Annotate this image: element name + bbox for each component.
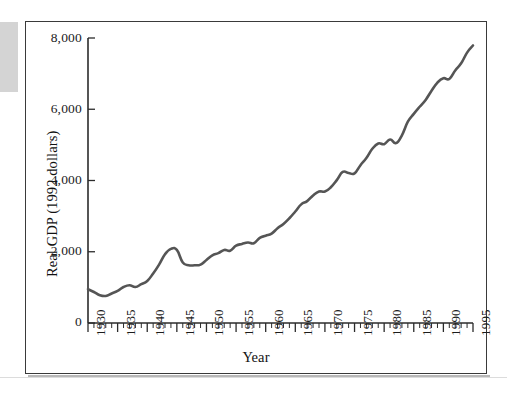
y-tick-label: 6,000 [24, 101, 82, 117]
x-tick-label: 1930 [93, 309, 109, 336]
gdp-line-series [88, 45, 473, 296]
x-tick-label: 1935 [123, 309, 139, 336]
x-tick-label: 1945 [182, 309, 198, 336]
x-tick-label: 1965 [300, 309, 316, 336]
x-tick-label: 1990 [448, 309, 464, 336]
x-tick-label: 1975 [360, 309, 376, 336]
x-tick-label: 1970 [330, 309, 346, 336]
scan-artifact-bottom-rule [0, 377, 507, 378]
x-axis-title: Year [26, 349, 486, 366]
y-tick-label: 0 [24, 314, 82, 330]
y-tick-label: 8,000 [24, 30, 82, 46]
scan-artifact-left [0, 22, 18, 92]
x-tick-label: 1960 [271, 309, 287, 336]
x-tick-label: 1985 [419, 309, 435, 336]
figure-frame: 8,000 6,000 4,000 2,000 0 Real GDP (1992… [25, 21, 487, 374]
x-tick-label: 1995 [478, 309, 494, 336]
x-tick-label: 1955 [241, 309, 257, 336]
x-tick-label: 1980 [389, 309, 405, 336]
y-axis-ticks [88, 38, 95, 323]
x-tick-label: 1940 [152, 309, 168, 336]
x-tick-label: 1950 [211, 309, 227, 336]
y-axis-title: Real GDP (1992 dollars) [44, 131, 61, 277]
